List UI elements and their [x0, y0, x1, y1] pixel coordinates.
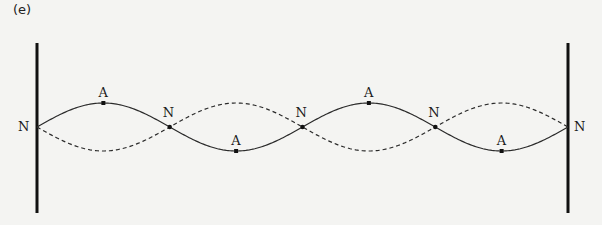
node-label: N [163, 105, 174, 120]
antinode-label: A [97, 85, 108, 100]
antinode-dot [367, 101, 371, 105]
node-dot [433, 125, 437, 129]
antinode-label: A [496, 133, 507, 148]
node-label: N [296, 105, 307, 120]
antinode-dot [234, 149, 238, 153]
node-label: N [574, 119, 585, 134]
standing-wave-diagram: NNNNNAAAA [0, 0, 602, 225]
antinode-label: A [230, 133, 241, 148]
antinode-label: A [363, 85, 374, 100]
node-dot [300, 125, 304, 129]
antinode-dot [101, 101, 105, 105]
node-label: N [428, 105, 439, 120]
node-dot [168, 125, 172, 129]
antinode-dot [500, 149, 504, 153]
node-label: N [18, 119, 29, 134]
